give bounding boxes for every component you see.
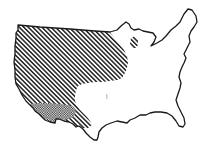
faint-mark bbox=[106, 94, 108, 99]
us-map-svg bbox=[0, 0, 207, 148]
great-lakes-region bbox=[130, 36, 138, 48]
us-map bbox=[0, 0, 207, 148]
